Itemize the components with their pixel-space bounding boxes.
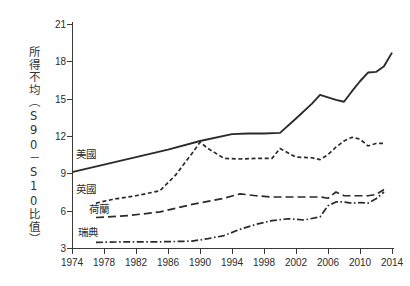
series-label-us: 美國 — [76, 146, 97, 161]
chart-figure: 所得不均（S90－S10比值） 36912151821 197419781982… — [0, 0, 410, 286]
chart-plot-area — [0, 0, 410, 286]
series-line-美國 — [72, 53, 392, 172]
series-label-uk: 英國 — [76, 181, 97, 196]
series-line-瑞典 — [96, 192, 384, 242]
series-label-sweden: 瑞典 — [78, 224, 99, 239]
series-label-netherlands: 荷蘭 — [89, 201, 110, 216]
series-line-荷蘭 — [96, 190, 384, 218]
